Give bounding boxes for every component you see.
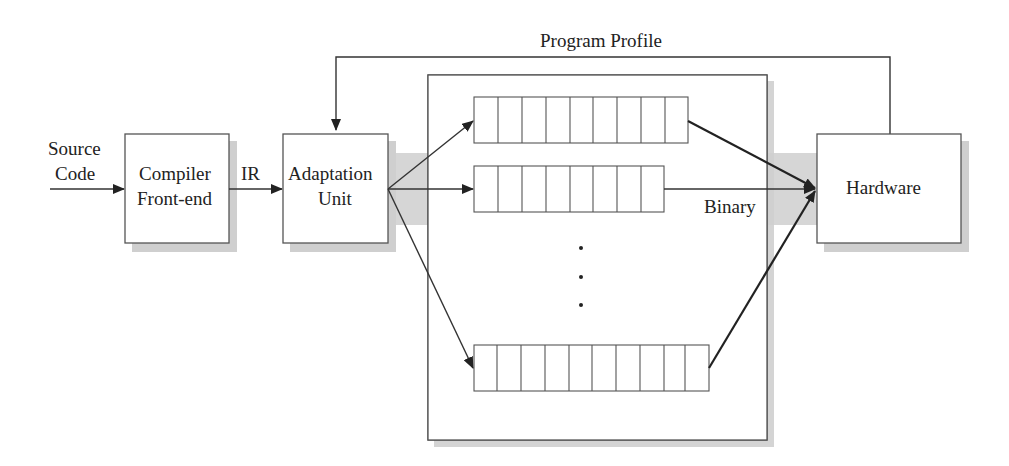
source-code-label-line2: Code [55, 163, 95, 184]
binary-label: Binary [704, 196, 756, 217]
program-profile-label: Program Profile [540, 30, 662, 51]
adaptation-unit-label-line1: Adaptation [288, 163, 373, 184]
strategy-row-3 [474, 345, 709, 391]
source-code-label-line1: Source [48, 138, 101, 159]
hardware-node: Hardware [817, 134, 969, 252]
ir-label: IR [241, 163, 260, 184]
hardware-label: Hardware [846, 177, 921, 198]
compiler-frontend-label-line2: Front-end [137, 188, 212, 209]
strategy-row-2 [474, 166, 664, 212]
adaptation-unit-label-line2: Unit [318, 188, 353, 209]
compiler-frontend-label-line1: Compiler [139, 163, 211, 184]
strategy-row-1 [474, 97, 688, 143]
compiler-frontend-node: Compiler Front-end [125, 134, 237, 252]
compilation-diagram: Program Profile Source Code Compiler Fro… [0, 0, 1009, 466]
adaptation-unit-node: Adaptation Unit [283, 134, 396, 252]
